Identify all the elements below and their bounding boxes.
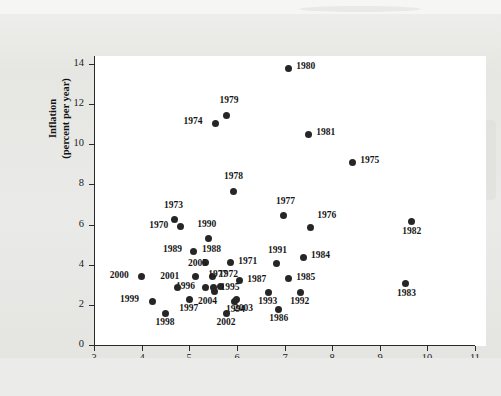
y-tick-label: 8 <box>62 177 84 188</box>
data-point-label: 1989 <box>163 244 182 254</box>
data-point-label: 1988 <box>202 244 221 254</box>
data-point <box>297 289 304 296</box>
data-point-label: 1985 <box>296 272 315 282</box>
data-point-label: 2000 <box>110 270 129 280</box>
data-point-label: 1978 <box>224 171 243 181</box>
data-point-label: 1979 <box>219 95 238 105</box>
data-point <box>174 284 181 291</box>
x-tick-label: 4 <box>131 352 153 363</box>
x-tick-label: 8 <box>321 352 343 363</box>
y-axis-title-line1: Inflation <box>47 99 58 138</box>
data-point-label: 1980 <box>296 61 315 71</box>
y-tick-label: 12 <box>62 97 84 108</box>
data-point <box>223 310 230 317</box>
x-tick-label: 11 <box>464 352 486 363</box>
data-point <box>190 248 197 255</box>
data-point <box>212 120 219 127</box>
x-tick-label: 10 <box>416 352 438 363</box>
y-tick-mark <box>89 305 94 306</box>
data-point <box>230 188 237 195</box>
y-tick-label: 0 <box>62 338 84 349</box>
data-point-label: 1986 <box>269 313 288 323</box>
x-axis-title: Civilian unemployment rate (percent) <box>248 370 417 381</box>
y-tick-label: 10 <box>62 137 84 148</box>
x-tick-mark <box>189 346 190 351</box>
x-tick-mark <box>142 346 143 351</box>
data-point-label: 1982 <box>402 226 421 236</box>
data-point <box>223 112 230 119</box>
x-tick-label: 5 <box>178 352 200 363</box>
data-point-label: 1992 <box>290 296 309 306</box>
data-point <box>265 289 272 296</box>
x-tick-mark <box>237 346 238 351</box>
data-point-label: 1983 <box>397 288 416 298</box>
y-tick-label: 14 <box>62 57 84 68</box>
data-point-label: 1970 <box>149 220 168 230</box>
y-tick-label: 6 <box>62 218 84 229</box>
data-point-label: 1974 <box>183 116 202 126</box>
x-tick-mark <box>380 346 381 351</box>
data-point-label: 1984 <box>311 250 330 260</box>
data-point-label: 1975 <box>360 155 379 165</box>
data-point-label: 1991 <box>268 245 287 255</box>
data-point <box>285 65 292 72</box>
data-point-label: 1998 <box>155 317 174 327</box>
y-axis-line <box>94 56 95 346</box>
data-point-label: 2005 <box>188 258 207 268</box>
data-point <box>149 298 156 305</box>
x-tick-mark <box>285 346 286 351</box>
x-tick-mark <box>475 346 476 351</box>
data-point-label: 2002 <box>216 317 235 327</box>
data-point-label: 1976 <box>317 210 336 220</box>
data-point-label: 1987 <box>247 274 266 284</box>
y-tick-label: 2 <box>62 298 84 309</box>
scatter-plot-figure: Inflation (percent per year) Civilian un… <box>18 14 483 350</box>
data-point-label: 1977 <box>208 269 227 279</box>
x-tick-mark <box>332 346 333 351</box>
x-tick-mark <box>94 346 95 351</box>
data-point <box>171 216 178 223</box>
x-tick-label: 9 <box>369 352 391 363</box>
x-tick-label: 6 <box>226 352 248 363</box>
data-point <box>205 235 212 242</box>
y-tick-label: 4 <box>62 258 84 269</box>
y-tick-mark <box>89 265 94 266</box>
data-point-label: 1993 <box>258 296 277 306</box>
data-point-label: 1990 <box>197 219 216 229</box>
x-tick-mark <box>427 346 428 351</box>
data-point <box>349 159 356 166</box>
data-point <box>275 306 282 313</box>
x-tick-label: 7 <box>274 352 296 363</box>
y-tick-mark <box>89 144 94 145</box>
data-point-label: 2003 <box>234 303 253 313</box>
data-point-label: 2001 <box>160 271 179 281</box>
data-point <box>162 310 169 317</box>
data-point-label: 1995 <box>221 282 240 292</box>
data-point-label: 1977 <box>276 196 295 206</box>
y-tick-mark <box>89 225 94 226</box>
x-tick-label: 3 <box>83 352 105 363</box>
y-tick-mark <box>89 64 94 65</box>
scan-artifact <box>300 6 420 12</box>
scanned-page: Inflation (percent per year) Civilian un… <box>0 0 501 396</box>
data-point <box>300 254 307 261</box>
data-point-label: 1981 <box>316 127 335 137</box>
y-tick-mark <box>89 104 94 105</box>
data-point-label: 2004 <box>198 296 217 306</box>
data-point <box>211 288 218 295</box>
data-point <box>305 131 312 138</box>
data-point-label: 1997 <box>179 303 198 313</box>
y-tick-mark <box>89 184 94 185</box>
data-point-label: 1999 <box>120 294 139 304</box>
data-point-label: 1971 <box>238 256 257 266</box>
data-point-label: 1973 <box>164 200 183 210</box>
